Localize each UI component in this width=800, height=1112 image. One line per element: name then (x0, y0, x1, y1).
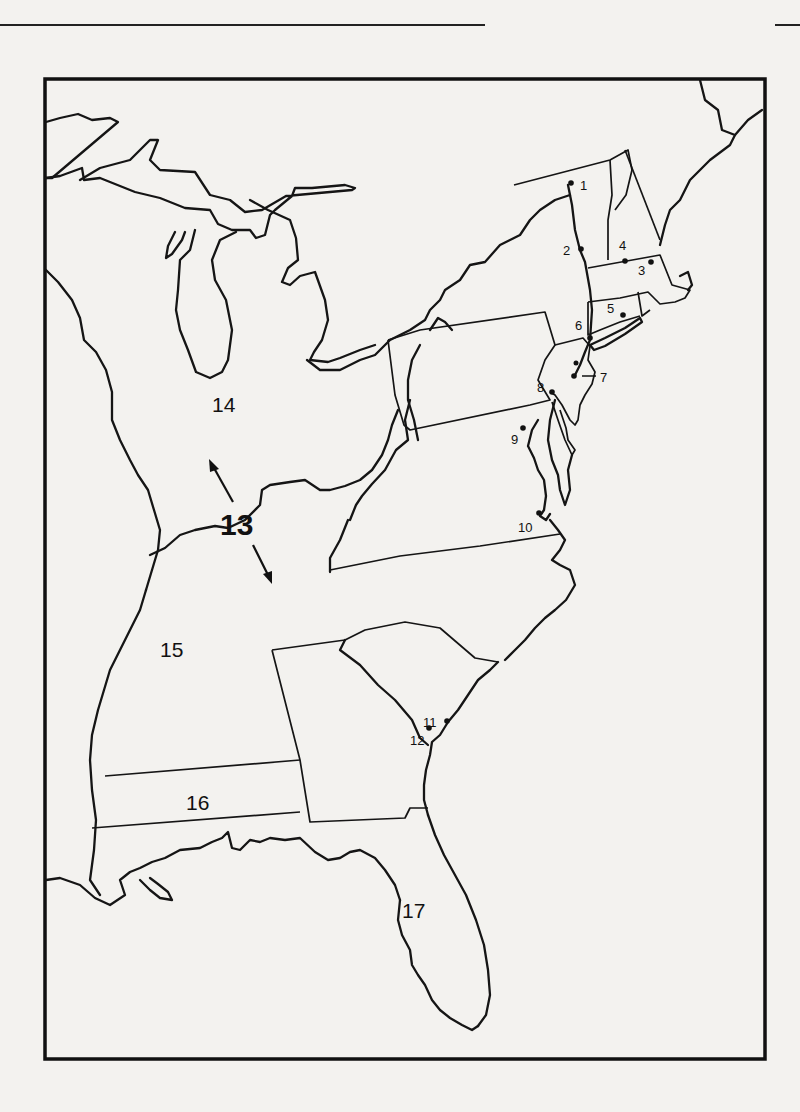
arrow-southeast-head-icon (263, 571, 272, 584)
new-york-border (514, 150, 632, 210)
region-labels: 14 13 15 16 17 (160, 393, 425, 922)
marker-label-6: 6 (575, 318, 582, 333)
region-label-13: 13 (220, 508, 253, 541)
marker-label-12: 12 (410, 733, 424, 748)
region-label-16: 16 (186, 791, 209, 814)
kentucky-tennessee-border (330, 534, 560, 570)
ohio-river (150, 410, 398, 555)
marker-dot-12 (426, 725, 432, 731)
alabama-mississippi-line (105, 760, 300, 776)
arrow-southeast (253, 545, 268, 575)
allegheny-river (408, 318, 452, 440)
marker-dot-1 (568, 180, 574, 186)
marker-label-4: 4 (619, 238, 626, 253)
rhode-island-border (638, 292, 650, 316)
new-jersey-border (550, 338, 595, 425)
pennsylvania-border (388, 312, 555, 430)
chesapeake-bay (528, 420, 550, 520)
carolina-coast (424, 662, 498, 815)
green-bay (166, 232, 185, 258)
marker-label-2: 2 (563, 243, 570, 258)
marker-dot-8 (549, 389, 555, 395)
marker-dot-4 (622, 258, 628, 264)
coastlines-and-borders (46, 80, 762, 1030)
marker-label-5: 5 (607, 301, 614, 316)
nc-sc-border (345, 622, 498, 662)
eastern-us-map: 1 2 3 4 5 6 7 8 9 10 11 12 14 13 15 16 1… (0, 0, 800, 1112)
marker-dot-9 (520, 425, 526, 431)
upper-peninsula-coast (46, 140, 355, 238)
mississippi-river-lower (90, 590, 146, 895)
mobile-bay (140, 878, 172, 900)
savannah-river (340, 640, 428, 745)
marker-dot-2 (578, 246, 584, 252)
marker-dot-3 (648, 259, 654, 265)
marker-label-10: 10 (518, 520, 532, 535)
maine-north (735, 110, 762, 135)
region-label-15: 15 (160, 638, 183, 661)
marker-dot-6 (587, 335, 593, 341)
marker-dot-11 (444, 718, 450, 724)
new-hampshire-east (625, 150, 660, 240)
region-label-17: 17 (402, 899, 425, 922)
arrow-northwest-head-icon (209, 459, 219, 472)
marker-label-7: 7 (600, 370, 607, 385)
region-label-14: 14 (212, 393, 236, 416)
lake-erie-shore (307, 195, 570, 370)
florida-east-coast (428, 815, 490, 1026)
marker-label-3: 3 (638, 263, 645, 278)
tennessee-river (330, 520, 348, 572)
lake-michigan-shore (176, 230, 236, 378)
marker-label-9: 9 (511, 432, 518, 447)
mississippi-river-upper (46, 270, 160, 590)
marker-label-8: 8 (537, 380, 544, 395)
florida-panhandle-line (92, 812, 300, 828)
maine-coast (660, 80, 735, 245)
marker-dot-7a (574, 361, 579, 366)
delaware-border (552, 402, 575, 455)
vermont-nh-line (608, 160, 612, 260)
marker-dot-10 (536, 510, 542, 516)
marker-dot-5 (620, 312, 626, 318)
arrow-northwest (214, 468, 233, 502)
marker-dot-7 (571, 373, 577, 379)
marker-label-1: 1 (580, 178, 587, 193)
georgia-border (272, 640, 428, 822)
